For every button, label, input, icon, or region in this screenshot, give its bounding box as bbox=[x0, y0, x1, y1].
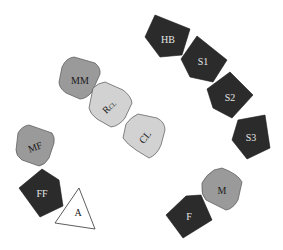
node-s1: S1 bbox=[181, 36, 227, 82]
node-label-mm: MM bbox=[71, 75, 89, 86]
node-label-m: M bbox=[218, 185, 227, 196]
node-label-s3: S3 bbox=[246, 132, 257, 143]
node-label-s2: S2 bbox=[225, 92, 236, 103]
node-hb: HB bbox=[145, 15, 190, 57]
node-rcl: RCL bbox=[89, 82, 132, 127]
node-ff: FF bbox=[19, 169, 63, 217]
diagram-canvas: HB S1 S2 S3 MM RCL bbox=[0, 0, 283, 250]
node-mf: MF bbox=[16, 125, 54, 166]
node-label-ff: FF bbox=[36, 188, 48, 199]
node-label-f: F bbox=[186, 211, 192, 222]
node-f: F bbox=[166, 195, 212, 238]
node-m: M bbox=[202, 168, 242, 210]
node-cl: CL bbox=[123, 114, 165, 158]
node-s3: S3 bbox=[232, 115, 270, 159]
node-label-hb: HB bbox=[161, 34, 175, 45]
node-label-s1: S1 bbox=[198, 56, 209, 67]
node-label-a: A bbox=[74, 207, 82, 218]
